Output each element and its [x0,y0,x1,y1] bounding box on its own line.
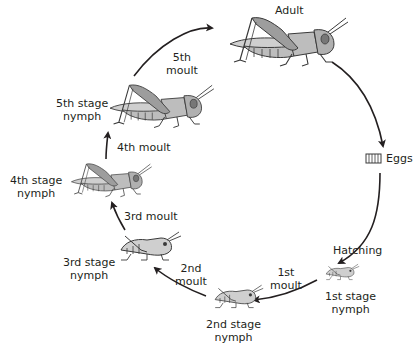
cycle-arrows [106,28,383,300]
label-moult1: 1st moult [270,266,302,292]
nymph1-illustration [326,264,359,279]
arrow-nymph4-to-nymph5 [106,133,108,159]
label-moult5: 5th moult [166,51,198,77]
arrow-adult-to-eggs [332,62,383,146]
life-cycle-diagram: Adult Eggs Hatching 1st stage nymph 1st … [0,0,420,343]
label-hatching: Hatching [333,244,382,257]
label-nymph3: 3rd stage nymph [63,256,115,282]
nymph2-illustration [215,285,263,307]
label-eggs: Eggs [386,152,413,165]
label-nymph4: 4th stage nymph [10,174,62,200]
label-nymph1: 1st stage nymph [325,290,376,316]
nymph3-illustration [121,232,181,260]
label-nymph5: 5th stage nymph [56,97,108,123]
label-adult: Adult [275,4,304,17]
nymph5-illustration [110,85,214,128]
adult-grasshopper-illustration [230,18,348,66]
nymph4-illustration [71,164,151,197]
label-moult4: 4th moult [117,141,171,154]
label-moult2: 2nd moult [175,262,207,288]
label-nymph2: 2nd stage nymph [206,318,261,343]
label-moult3: 3rd moult [124,210,178,223]
eggs-icon [366,154,381,163]
